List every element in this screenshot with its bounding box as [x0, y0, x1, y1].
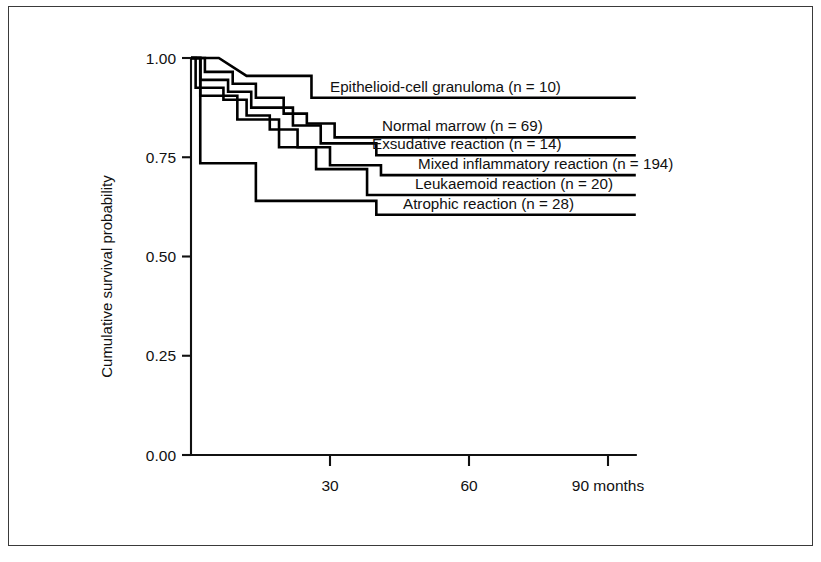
axis-titles-layer: Cumulative survival probability — [98, 175, 115, 378]
y-axis-tick-label: 0.75 — [146, 149, 176, 166]
series-label: Leukaemoid reaction (n = 20) — [415, 175, 613, 192]
y-axis-tick-label: 0.50 — [146, 248, 177, 265]
series-label: Epithelioid-cell granuloma (n = 10) — [330, 78, 561, 95]
series-label: Exsudative reaction (n = 14) — [372, 135, 562, 152]
y-axis-title: Cumulative survival probability — [98, 175, 115, 378]
y-axis-tick-label: 1.00 — [146, 50, 177, 67]
y-axis-tick-label: 0.25 — [146, 347, 176, 364]
y-axis-tick-label: 0.00 — [146, 447, 177, 464]
figure-container: 0.000.250.500.751.00306090 months Epithe… — [0, 0, 821, 562]
axes-layer: 0.000.250.500.751.00306090 months — [146, 50, 645, 495]
series-label: Normal marrow (n = 69) — [382, 117, 543, 134]
x-axis-tick-label: 60 — [460, 477, 478, 494]
x-axis-tick-label: 90 months — [572, 477, 645, 494]
series-label: Mixed inflammatory reaction (n = 194) — [418, 155, 673, 172]
series-label: Atrophic reaction (n = 28) — [403, 195, 574, 212]
survival-chart: 0.000.250.500.751.00306090 months Epithe… — [0, 0, 821, 562]
x-axis-tick-label: 30 — [321, 477, 339, 494]
